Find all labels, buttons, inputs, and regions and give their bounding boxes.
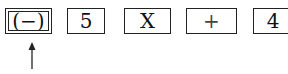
five-key-label: 5 bbox=[80, 11, 93, 31]
multiply-key-label: X bbox=[140, 11, 155, 32]
five-key[interactable]: 5 bbox=[67, 8, 105, 34]
plus-key-label: + bbox=[203, 11, 220, 31]
four-key[interactable]: 4 bbox=[253, 8, 288, 34]
multiply-key[interactable]: X bbox=[124, 8, 171, 34]
up-arrow-icon bbox=[26, 42, 38, 70]
plus-key[interactable]: + bbox=[186, 8, 237, 34]
negative-key[interactable]: (−) bbox=[5, 8, 52, 34]
negative-key-label: (−) bbox=[12, 11, 44, 31]
four-key-label: 4 bbox=[267, 11, 280, 31]
